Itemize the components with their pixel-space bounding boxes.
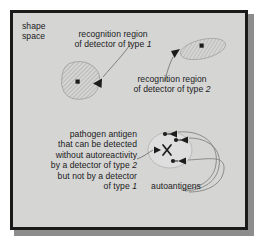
label-recognition-region-type2: recognition regionof detector of type 2 (111, 74, 233, 95)
recognition-region-type1 (61, 62, 99, 100)
antigen-square-type1 (76, 80, 80, 84)
label-type-number: 2 (206, 84, 211, 94)
label-type-number: 2 (132, 160, 137, 170)
antigen-square-type2 (200, 44, 204, 48)
label-type-number: 1 (147, 39, 152, 49)
label-line: by a detector of type (51, 160, 132, 170)
detector-triangle-type2 (171, 49, 180, 58)
label-line: of detector of type (74, 39, 146, 49)
label-autoantigens: autoantigens (131, 181, 221, 191)
label-pathogen-antigen: pathogen antigenthat can be detectedwith… (15, 129, 137, 191)
label-line: of type (104, 181, 133, 191)
label-line: that can be detected (58, 139, 137, 149)
shape-space-figure: shape space recognition regionof detecto… (0, 0, 260, 242)
recognition-region-type2 (178, 35, 227, 64)
label-line: pathogen antigen (70, 129, 137, 139)
label-line: without autoreactivity (56, 150, 137, 160)
label-line: recognition region (137, 74, 206, 84)
label-recognition-region-type1: recognition regionof detector of type 1 (57, 29, 169, 50)
label-shape-space: shape space (22, 21, 46, 42)
panel-inner: shape space recognition regionof detecto… (13, 13, 245, 227)
label-line: but not by a detector (58, 171, 137, 181)
label-line: of detector of type (133, 84, 205, 94)
diagram-panel: shape space recognition regionof detecto… (10, 10, 248, 230)
label-line: recognition region (78, 29, 147, 39)
